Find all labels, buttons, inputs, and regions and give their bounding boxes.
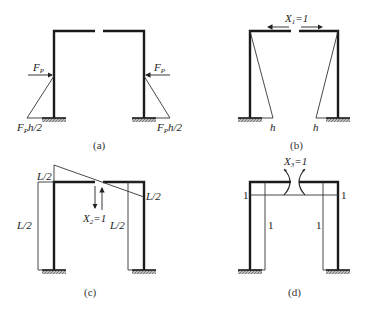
unknown-label-x1: X1=1 — [284, 12, 308, 26]
label-left-top: 1 — [243, 189, 249, 201]
caption-c: (c) — [84, 286, 97, 299]
panel-b: X1=1 h h (b) — [238, 12, 350, 152]
label-left-column: L/2 — [16, 219, 32, 231]
structural-frame-figure: FP FP FPh/2 FPh/2 (a) X1=1 h h (b) — [0, 0, 365, 311]
caption-d: (d) — [288, 286, 301, 299]
panel-a: FP FP FPh/2 FPh/2 (a) — [16, 31, 183, 152]
frame-left-part — [250, 31, 291, 118]
frame-right-part — [299, 31, 338, 118]
frame-left-part — [54, 31, 95, 118]
value-label-right: h — [313, 121, 319, 133]
load-label-right: FP — [153, 61, 166, 75]
caption-b: (b) — [290, 139, 303, 152]
unknown-label-x2: X2=1 — [82, 212, 106, 226]
label-right-end: L/2 — [145, 190, 161, 202]
moment-label-right: FPh/2 — [156, 121, 183, 135]
value-label-left: h — [270, 121, 276, 133]
moment-diagram-left-column — [38, 182, 54, 270]
moment-label-left: FPh/2 — [16, 121, 43, 135]
caption-a: (a) — [93, 139, 106, 152]
moment-diagram-left — [250, 31, 273, 118]
label-top-left: L/2 — [36, 170, 52, 182]
panel-c: X2=1 L/2 L/2 L/2 L/2 (c) — [16, 165, 161, 299]
label-right-inner: L/2 — [109, 219, 125, 231]
panel-d: X3=1 1 1 1 1 (d) — [238, 155, 350, 299]
load-label-left: FP — [32, 61, 45, 75]
moment-diagram-right — [316, 31, 338, 118]
frame-left-part — [54, 182, 95, 270]
moment-diagram-right — [144, 76, 170, 118]
label-right-column: 1 — [316, 219, 322, 231]
moment-diagram-right-column — [128, 182, 144, 270]
label-left-column: 1 — [268, 219, 274, 231]
moment-diagram-left — [27, 76, 54, 118]
frame-right-part — [103, 31, 144, 118]
unknown-label-x3: X3=1 — [283, 155, 307, 169]
label-right-top: 1 — [341, 189, 347, 201]
